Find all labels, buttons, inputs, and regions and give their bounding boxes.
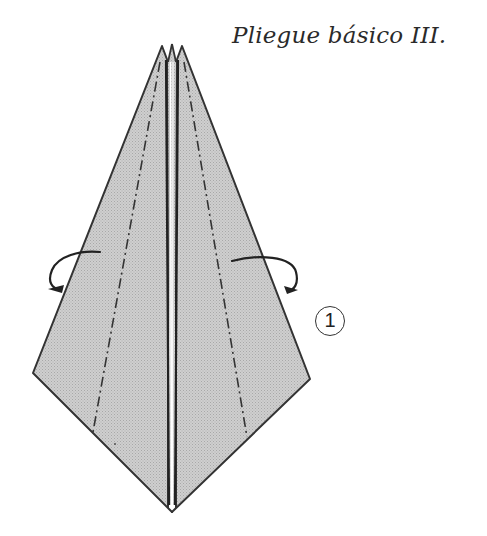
origami-kite-diagram (0, 0, 487, 536)
left-flap (33, 46, 172, 512)
step-number-badge: 1 (315, 306, 345, 336)
